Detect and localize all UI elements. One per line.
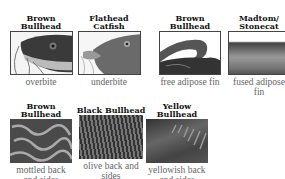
panel-caption: fused adiposefin (226, 77, 285, 97)
panel-brown-bullhead-mottled: BrownBullhead mottled backand sides (8, 102, 74, 179)
panel-title: Black Bullhead (76, 106, 146, 114)
panel-black-bullhead-olive: Black Bullhead olive back andsides (76, 102, 146, 179)
panel-caption: olive back andsides (76, 161, 146, 179)
panel-title: YellowBullhead (144, 102, 210, 118)
panel-caption: yellowish backand sides (144, 165, 210, 179)
panel-caption: free adipose fin (158, 77, 222, 87)
panel-title: Madtom/Stonecat (226, 14, 285, 30)
panel-madtom-stonecat-fused-adipose: Madtom/Stonecat fused adiposefin (226, 14, 285, 97)
panel-brown-bullhead-overbite: BrownBullhead overbite (8, 14, 74, 87)
panel-title: BrownBullhead (158, 14, 222, 30)
panel-caption: underbite (76, 77, 142, 87)
fish-head-overbite-icon (10, 31, 73, 75)
mottled-skin-icon (10, 119, 72, 163)
panel-caption: mottled backand sides (8, 165, 74, 179)
free-adipose-fin-icon (159, 31, 221, 75)
panel-brown-bullhead-free-adipose: BrownBullhead free adipose fin (158, 14, 222, 87)
panel-caption: overbite (8, 77, 74, 87)
fish-head-underbite-icon (78, 31, 141, 75)
panel-title: BrownBullhead (8, 102, 74, 118)
panel-flathead-catfish-underbite: FlatheadCatfish underbite (76, 14, 142, 87)
panel-yellow-bullhead-yellowish: YellowBullhead yellowish backand sides (144, 102, 210, 179)
olive-skin-icon (79, 115, 143, 159)
panel-title: BrownBullhead (8, 14, 74, 30)
fused-adipose-fin-icon (228, 31, 285, 75)
yellowish-skin-icon (146, 119, 208, 163)
panel-title: FlatheadCatfish (76, 14, 142, 30)
